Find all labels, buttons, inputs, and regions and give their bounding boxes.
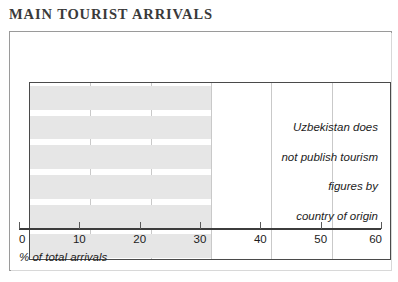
page-title: MAIN TOURIST ARRIVALS — [9, 6, 213, 23]
tick-mark-50 — [321, 222, 322, 229]
tick-label-30: 30 — [194, 233, 207, 245]
annotation-line-2: not publish tourism — [281, 151, 378, 163]
tick-mark-0 — [19, 222, 20, 229]
tick-label-10: 10 — [73, 233, 86, 245]
tick-label-40: 40 — [254, 233, 267, 245]
tick-label-60: 60 — [369, 233, 382, 245]
tick-mark-60 — [381, 222, 382, 229]
tick-mark-30 — [200, 222, 201, 229]
bar-5 — [30, 205, 211, 229]
tick-mark-10 — [79, 222, 80, 229]
bar-1 — [30, 86, 211, 110]
annotation-line-4: country of origin — [296, 210, 378, 222]
annotation-line-3: figures by — [328, 180, 378, 192]
bar-4 — [30, 175, 211, 199]
tick-label-20: 20 — [133, 233, 146, 245]
bar-2 — [30, 116, 211, 140]
tick-label-50: 50 — [314, 233, 327, 245]
tick-label-0: 0 — [19, 233, 25, 245]
bar-3 — [30, 145, 211, 169]
annotation-line-1: Uzbekistan does — [293, 121, 378, 133]
x-axis-label: % of total arrivals — [19, 251, 107, 263]
bar-row — [30, 83, 390, 113]
tick-mark-40 — [260, 222, 261, 229]
tick-mark-20 — [140, 222, 141, 229]
